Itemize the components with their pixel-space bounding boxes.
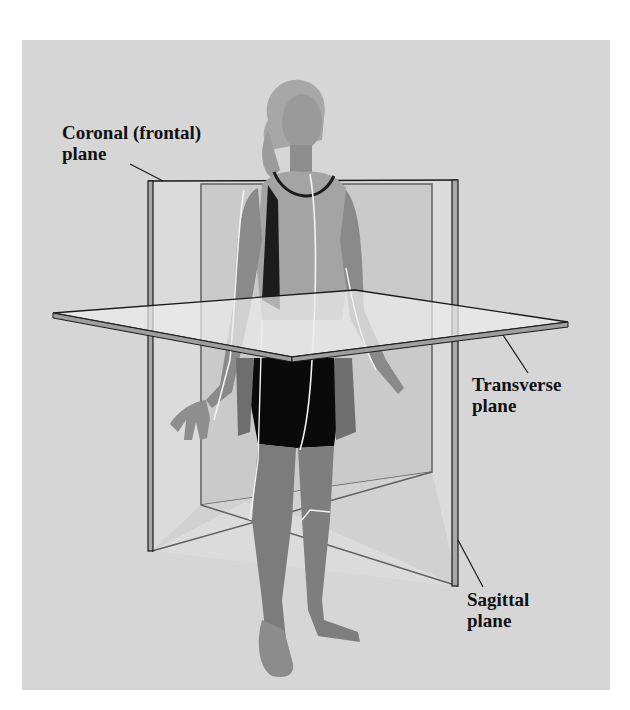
transverse-label-line1: Transverse — [472, 374, 561, 395]
coronal-label-line2: plane — [62, 143, 201, 164]
anatomical-planes-illustration — [0, 0, 630, 710]
sagittal-plane-label: Sagittal plane — [467, 589, 529, 631]
transverse-label-line2: plane — [472, 395, 561, 416]
transverse-plane — [53, 290, 568, 362]
coronal-label-line1: Coronal (frontal) — [62, 122, 201, 143]
transverse-plane-label: Transverse plane — [472, 374, 561, 416]
sagittal-label-line1: Sagittal — [467, 589, 529, 610]
coronal-plane-label: Coronal (frontal) plane — [62, 122, 201, 164]
sagittal-leader-line — [458, 540, 483, 587]
coronal-leader-line — [130, 164, 163, 181]
sagittal-label-line2: plane — [467, 610, 529, 631]
transverse-leader-line — [503, 335, 528, 373]
